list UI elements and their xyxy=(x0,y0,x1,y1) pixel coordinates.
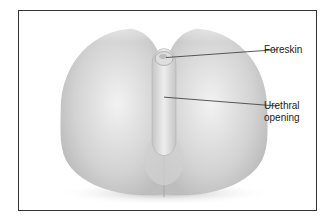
urethral-label-line-2: opening xyxy=(264,112,300,124)
urethral-label-line-1: Urethral xyxy=(264,100,300,112)
foreskin-label: Foreskin xyxy=(264,44,302,56)
foreskin-label-text: Foreskin xyxy=(264,44,302,56)
urethral-opening-label: Urethral opening xyxy=(264,100,300,124)
